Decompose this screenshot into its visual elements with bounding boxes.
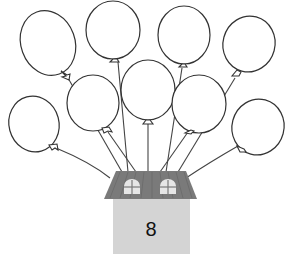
balloon-4	[217, 10, 282, 78]
window-right	[160, 179, 176, 194]
house-number: 8	[145, 218, 156, 240]
balloon-8	[172, 75, 226, 134]
balloon-7	[121, 60, 175, 124]
balloon-9	[226, 93, 288, 161]
house: 8	[104, 171, 197, 254]
house-roof	[104, 171, 197, 199]
balloon-3	[158, 6, 210, 67]
window-left	[124, 179, 140, 194]
balloon-house-illustration: 8	[0, 0, 288, 256]
balloon-2	[86, 1, 140, 62]
balloon-5	[3, 90, 66, 157]
balloon-1	[11, 3, 84, 83]
balloon-6	[67, 75, 119, 133]
